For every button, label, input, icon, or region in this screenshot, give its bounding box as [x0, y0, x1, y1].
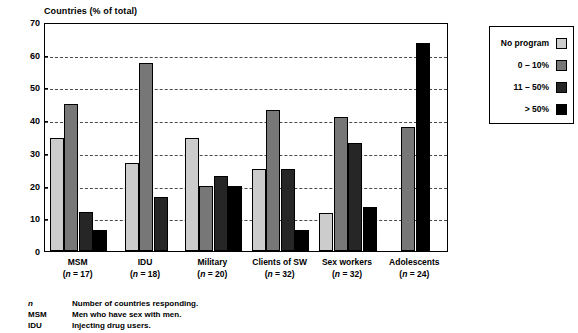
category-name: Military	[197, 257, 227, 267]
y-tick-label-0: 0	[2, 248, 40, 257]
footnote-text: Injecting drug users.	[72, 320, 151, 331]
y-tick-mark-60	[44, 56, 48, 57]
footnote-key: MSM	[28, 309, 72, 320]
y-tick-mark-20	[44, 187, 48, 188]
y-tick-mark-30	[44, 154, 48, 155]
legend-swatch	[556, 38, 567, 49]
legend-swatch	[556, 104, 567, 115]
chart-title: Countries (% of total)	[44, 6, 137, 16]
y-tick-mark-10	[44, 219, 48, 220]
y-tick-label-60: 60	[2, 51, 40, 60]
footnote-key: n	[28, 298, 72, 309]
category-name: Clients of SW	[252, 257, 307, 267]
category-name: Sex workers	[322, 257, 372, 267]
category-label-clients-of-sw: Clients of SW(n = 32)	[246, 256, 313, 280]
legend-item-label: No program	[501, 38, 549, 48]
legend-item: 0 – 10%	[490, 54, 573, 76]
category-label-sex-workers: Sex workers(n = 32)	[313, 256, 380, 280]
footnote-key: IDU	[28, 320, 72, 331]
category-sample-size: (n = 18)	[111, 268, 178, 280]
category-label-msm: MSM(n = 17)	[44, 256, 111, 280]
legend-item: 11 – 50%	[490, 76, 573, 98]
category-sample-size: (n = 32)	[246, 268, 313, 280]
category-sample-size: (n = 32)	[313, 268, 380, 280]
legend-item: No program	[490, 32, 573, 54]
y-tick-label-20: 20	[2, 182, 40, 191]
y-axis: 010203040506070	[0, 23, 40, 252]
plot-area	[44, 23, 448, 252]
y-tick-mark-40	[44, 121, 48, 122]
y-tick-label-50: 50	[2, 84, 40, 93]
legend-item-label: 0 – 10%	[518, 60, 549, 70]
category-sample-size: (n = 17)	[44, 268, 111, 280]
legend-item-label: > 50%	[525, 104, 549, 114]
category-label-adolescents: Adolescents(n = 24)	[381, 256, 448, 280]
bar	[416, 43, 430, 251]
category-sample-size: (n = 20)	[179, 268, 246, 280]
category-name: Adolescents	[389, 257, 440, 267]
bar	[401, 127, 415, 251]
footnote-row: MSMMen who have sex with men.	[28, 309, 198, 320]
legend-swatch	[556, 60, 567, 71]
footnote-text: Number of countries responding.	[72, 298, 198, 309]
category-sample-size: (n = 24)	[381, 268, 448, 280]
y-tick-mark-50	[44, 88, 48, 89]
chart-legend: No program0 – 10%11 – 50%> 50%	[489, 26, 574, 124]
y-tick-label-10: 10	[2, 215, 40, 224]
legend-item-label: 11 – 50%	[514, 82, 549, 92]
footnote-row: IDUInjecting drug users.	[28, 320, 198, 331]
x-axis-category-labels: MSM(n = 17)IDU(n = 18)Military(n = 20)Cl…	[44, 256, 448, 286]
footnote-text: Men who have sex with men.	[72, 309, 181, 320]
category-label-military: Military(n = 20)	[179, 256, 246, 280]
y-tick-label-40: 40	[2, 117, 40, 126]
legend-item: > 50%	[490, 98, 573, 120]
category-label-idu: IDU(n = 18)	[111, 256, 178, 280]
category-name: IDU	[138, 257, 153, 267]
legend-swatch	[556, 82, 567, 93]
bar-group-adolescents	[45, 24, 449, 251]
category-name: MSM	[68, 257, 88, 267]
y-tick-label-30: 30	[2, 149, 40, 158]
footnotes-block: nNumber of countries responding.MSMMen w…	[28, 298, 198, 331]
footnote-row: nNumber of countries responding.	[28, 298, 198, 309]
y-tick-label-70: 70	[2, 19, 40, 28]
